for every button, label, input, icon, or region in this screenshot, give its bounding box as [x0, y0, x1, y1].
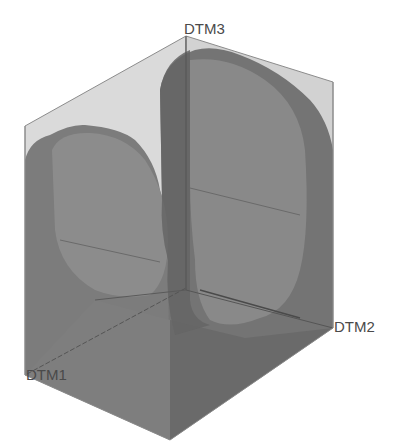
- dtm3-label[interactable]: DTM3: [184, 20, 225, 37]
- solid-bottom-right: [170, 320, 333, 440]
- dtm1-label[interactable]: DTM1: [26, 366, 67, 383]
- dtm2-label[interactable]: DTM2: [334, 318, 375, 335]
- cad-viewport[interactable]: DTM3 DTM2 DTM1: [0, 0, 405, 441]
